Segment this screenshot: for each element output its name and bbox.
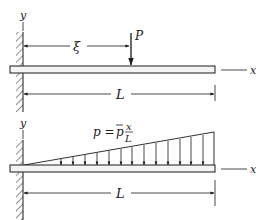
fixed-wall-bottom	[16, 140, 23, 220]
length-dimension-bottom: L	[24, 180, 215, 206]
y-axis-label-bottom: y	[19, 117, 27, 130]
length-dimension-top: L	[24, 85, 215, 102]
formula-pbar: p	[116, 125, 124, 139]
formula-lhs: p =	[93, 125, 115, 139]
beam-bottom	[10, 165, 215, 172]
load-p-label: P	[134, 29, 144, 43]
length-label-bottom: L	[115, 186, 125, 201]
length-label-top: L	[115, 87, 125, 102]
formula-numerator: x	[126, 121, 132, 132]
load-arrows	[61, 135, 203, 165]
xi-dimension: ξ	[24, 39, 129, 54]
beam-top	[10, 66, 215, 73]
x-axis-label-top: x	[250, 64, 257, 77]
formula-denominator: L	[124, 133, 132, 144]
cantilever-beam-diagram: y ξ P x L y	[0, 0, 266, 220]
top-diagram: y ξ P x L	[10, 9, 257, 112]
y-axis-label-top: y	[19, 9, 27, 22]
xi-label: ξ	[73, 39, 81, 54]
load-formula: p = p x L	[93, 121, 133, 144]
point-load-p: P	[131, 29, 144, 65]
bottom-diagram: y p = p	[10, 117, 257, 220]
x-axis-label-bottom: x	[250, 163, 257, 176]
